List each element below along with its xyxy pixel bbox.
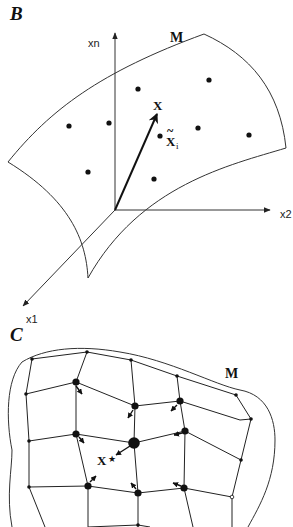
target-star: ★ (108, 454, 116, 464)
panel-c-label: C (10, 324, 23, 345)
manifold-label: M (170, 30, 183, 45)
lattice-node-active (72, 430, 79, 437)
lattice-node (24, 392, 28, 396)
data-point-xi (157, 133, 162, 138)
lattice-node (129, 358, 133, 362)
lattice-node-active (131, 402, 138, 409)
lattice-node-active (176, 397, 183, 404)
lattice-node (175, 374, 179, 378)
panel-c: C M (8, 324, 275, 527)
data-points (66, 77, 251, 181)
sample-label-tilde: ~ (167, 124, 174, 138)
lattice-node-open (230, 495, 234, 499)
sample-label-subscript: i (176, 141, 179, 151)
x-vector-label: X (153, 98, 163, 113)
data-point (206, 77, 211, 82)
lattice-node-active (84, 482, 91, 489)
lattice-node-active (72, 378, 79, 385)
update-arrow (128, 410, 133, 418)
update-arrow (79, 437, 84, 443)
data-point (106, 120, 111, 125)
x1-axis (23, 210, 115, 306)
panel-b: B M xn x2 x1 X X ~ i (8, 3, 292, 325)
data-point (195, 125, 200, 130)
x-vector-arrow (115, 114, 157, 210)
manifold-label-c: M (225, 366, 238, 381)
lattice-node-active (180, 484, 187, 491)
update-arrow (173, 483, 181, 486)
target-x-label: X (97, 453, 107, 468)
lattice-node (249, 417, 253, 421)
data-point (151, 176, 156, 181)
lattice-node-active (134, 489, 141, 496)
figure: B M xn x2 x1 X X ~ i C (0, 0, 293, 527)
data-point (135, 86, 140, 91)
data-point (246, 132, 251, 137)
lattice-node-winner (128, 437, 140, 449)
x1-axis-label: x1 (26, 313, 38, 325)
x2-axis-label: x2 (280, 208, 292, 220)
update-arrow (171, 405, 177, 411)
lattice-node (30, 357, 34, 361)
update-arrows (76, 386, 182, 489)
panel-b-label: B (9, 3, 23, 24)
manifold-surface (8, 34, 286, 278)
update-arrow (131, 483, 136, 489)
lattice-node (27, 485, 31, 489)
data-point (85, 169, 90, 174)
update-arrow-winner (116, 446, 130, 455)
lattice-node (239, 458, 243, 462)
lattice-node (136, 523, 140, 527)
update-arrow (90, 476, 96, 482)
update-arrow (76, 386, 82, 394)
lattice-node (234, 393, 238, 397)
lattice-node (85, 350, 89, 354)
xn-axis-label: xn (88, 37, 100, 49)
lattice-node (27, 439, 31, 443)
data-point (66, 123, 71, 128)
lattice-node-active (181, 427, 188, 434)
